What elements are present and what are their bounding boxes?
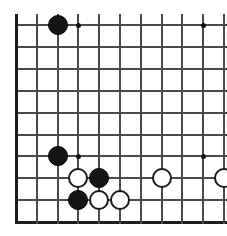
grid-line-horizontal-5	[15, 134, 227, 136]
white-stone-bottom-a[interactable]	[89, 190, 109, 210]
black-stone-left-side[interactable]	[48, 146, 68, 166]
white-stone-right-edge[interactable]	[214, 168, 227, 188]
star-point-upper-right-icon	[201, 23, 206, 28]
black-stone-bottom-left[interactable]	[68, 190, 88, 210]
black-stone-top-left[interactable]	[48, 15, 68, 35]
grid-line-horizontal-6	[15, 155, 227, 157]
goban-grid[interactable]	[0, 0, 227, 236]
white-stone-bottom-b[interactable]	[110, 190, 130, 210]
star-point-lower-left-icon	[76, 154, 81, 159]
grid-line-horizontal-2	[15, 68, 227, 70]
grid-line-vertical-2	[57, 14, 59, 224]
grid-line-vertical-9	[202, 14, 204, 224]
star-point-lower-right-icon	[201, 154, 206, 159]
grid-line-horizontal-0	[15, 24, 227, 26]
star-point-upper-left-icon	[76, 23, 81, 28]
grid-line-vertical-0	[15, 14, 18, 224]
grid-line-vertical-7	[161, 14, 163, 224]
white-stone-lower-left-a[interactable]	[68, 168, 88, 188]
grid-line-vertical-1	[36, 14, 38, 224]
grid-line-vertical-6	[140, 14, 142, 224]
grid-line-horizontal-9	[15, 221, 227, 224]
go-board-diagram: Go board position diagram	[0, 0, 227, 236]
grid-line-vertical-8	[181, 14, 183, 224]
grid-line-horizontal-1	[15, 46, 227, 48]
grid-line-horizontal-3	[15, 90, 227, 92]
grid-line-horizontal-7	[15, 177, 227, 179]
grid-line-horizontal-4	[15, 112, 227, 114]
white-stone-lower-right-a[interactable]	[152, 168, 172, 188]
black-stone-lower-center[interactable]	[89, 168, 109, 188]
grid-line-vertical-10	[223, 14, 225, 224]
